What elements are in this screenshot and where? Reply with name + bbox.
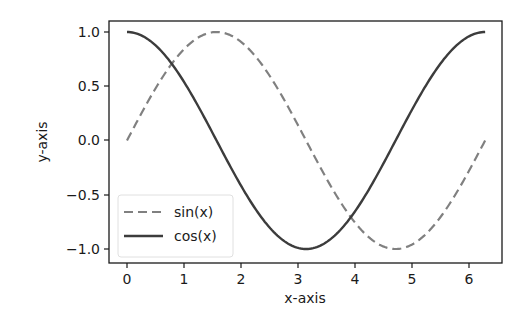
y-tick-label: −1.0: [66, 241, 100, 257]
y-tick-label: 1.0: [78, 24, 100, 40]
x-tick: 2: [237, 263, 246, 287]
x-tick: 0: [123, 263, 132, 287]
x-axis: 0 1 2 3 4 5 6 x-axis: [123, 263, 474, 306]
x-tick: 6: [465, 263, 474, 287]
y-tick: 0.5: [78, 78, 109, 94]
y-tick-label: 0.0: [78, 132, 100, 148]
x-tick-label: 6: [465, 271, 474, 287]
x-tick: 1: [180, 263, 189, 287]
legend: sin(x) cos(x): [118, 195, 233, 257]
y-axis-label: y-axis: [34, 121, 50, 162]
legend-label-sin: sin(x): [174, 204, 213, 220]
line-chart: 0 1 2 3 4 5 6 x-axis 1.0: [0, 0, 524, 325]
y-tick: 0.0: [78, 132, 109, 148]
y-tick: 1.0: [78, 24, 109, 40]
x-tick-label: 2: [237, 271, 246, 287]
y-tick: −1.0: [66, 241, 109, 257]
x-tick-label: 4: [351, 271, 360, 287]
y-tick: −0.5: [66, 187, 109, 203]
x-tick-label: 5: [408, 271, 417, 287]
x-tick-label: 3: [294, 271, 303, 287]
x-tick: 3: [294, 263, 303, 287]
x-axis-label: x-axis: [284, 290, 325, 306]
x-tick-label: 1: [180, 271, 189, 287]
legend-label-cos: cos(x): [174, 228, 217, 244]
x-tick: 4: [351, 263, 360, 287]
y-axis: 1.0 0.5 0.0 −0.5 −1.0 y-axis: [34, 24, 109, 257]
x-tick: 5: [408, 263, 417, 287]
y-tick-label: −0.5: [66, 187, 100, 203]
x-tick-label: 0: [123, 271, 132, 287]
y-tick-label: 0.5: [78, 78, 100, 94]
